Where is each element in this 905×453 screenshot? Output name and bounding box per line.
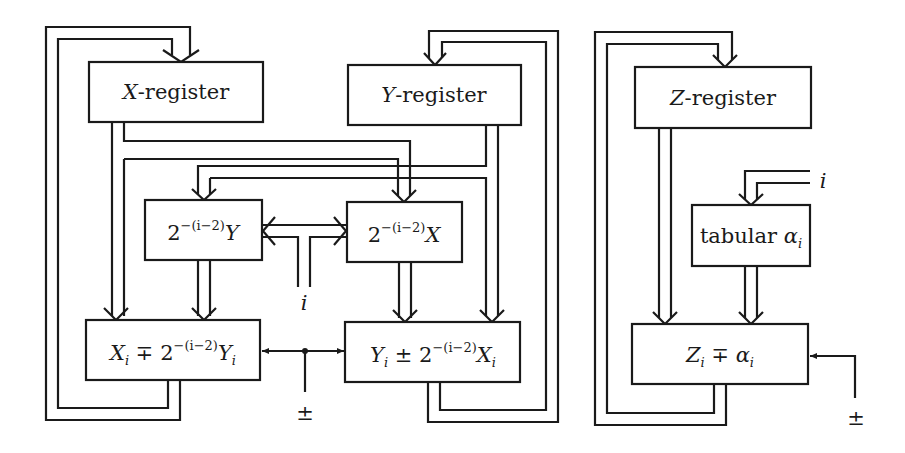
- arrowhead-z-register-icon: [713, 55, 737, 67]
- x-update-base: 2: [160, 341, 173, 365]
- shift-x-to-y-update: [393, 262, 417, 322]
- tabular-alpha-block: tabular αi: [692, 205, 810, 266]
- z-update-rhs: α: [736, 343, 750, 367]
- svg-text:Z-register: Z-register: [669, 86, 777, 110]
- arrowhead-left-icon: [263, 217, 275, 245]
- arrowhead-x-register-icon: [163, 50, 199, 62]
- shift-y-block: 2−(i−2)Y: [145, 200, 262, 260]
- x-update-rhs-sub: i: [232, 353, 236, 368]
- y-update-base: 2: [419, 343, 432, 367]
- shift-y-var: Y: [225, 221, 241, 245]
- sign-xy-label: ±: [296, 401, 314, 425]
- tabular-text: tabular: [700, 224, 784, 248]
- svg-text:X-register: X-register: [121, 80, 230, 104]
- y-update-rhs-sub: i: [492, 355, 496, 370]
- shift-y-to-x-update: [192, 260, 216, 320]
- x-reg-to-x-update: [104, 122, 128, 320]
- arrowhead-right-icon: [334, 217, 346, 245]
- z-update-rhs-sub: i: [750, 355, 754, 370]
- shift-y-exp: −(i−2): [181, 218, 225, 233]
- z-update-block: Zi ∓ αi: [632, 324, 808, 384]
- x-update-exp: −(i−2): [174, 338, 218, 353]
- shift-x-block: 2−(i−2)X: [347, 202, 462, 262]
- cordic-block-diagram: X-register Y-register Z-register 2−(i−2)…: [0, 0, 905, 453]
- y-reg-to-shift-y: [192, 125, 486, 200]
- svg-text:Y-register: Y-register: [381, 83, 487, 107]
- tabular-sub: i: [798, 236, 802, 251]
- x-update-block: Xi ∓ 2−(i−2)Yi: [86, 320, 260, 380]
- tabular-var: α: [784, 224, 798, 248]
- y-update-op: ±: [388, 343, 419, 367]
- sign-z-label: ±: [847, 406, 865, 430]
- y-register-suffix: -register: [395, 83, 487, 107]
- y-update-rhs: X: [475, 343, 493, 367]
- i-to-shift-boxes: [263, 217, 346, 287]
- x-register-block: X-register: [89, 62, 263, 122]
- x-update-lhs: X: [108, 341, 126, 365]
- svg-text:Zi ∓ αi: Zi ∓ αi: [685, 343, 754, 370]
- x-register-suffix: -register: [138, 80, 230, 104]
- z-register-var: Z: [669, 86, 685, 110]
- i-table-label: i: [820, 169, 827, 193]
- y-update-block: Yi ± 2−(i−2)Xi: [345, 322, 520, 382]
- i-shift-label: i: [301, 291, 308, 315]
- svg-text:tabular αi: tabular αi: [700, 224, 802, 251]
- z-update-lhs: Z: [685, 343, 701, 367]
- z-update-op: ∓: [705, 343, 736, 367]
- x-update-op: ∓: [129, 341, 160, 365]
- shift-x-exp: −(i−2): [381, 220, 425, 235]
- z-register-suffix: -register: [685, 86, 777, 110]
- sign-to-z-update: [810, 353, 855, 398]
- z-reg-to-z-update: [653, 128, 677, 324]
- i-to-tabular: [739, 171, 810, 205]
- shift-y-base: 2: [167, 221, 180, 245]
- y-register-block: Y-register: [348, 65, 521, 125]
- y-update-exp: −(i−2): [432, 340, 476, 355]
- tabular-to-z-update: [739, 266, 763, 324]
- shift-x-var: X: [423, 223, 441, 247]
- x-register-var: X: [121, 80, 139, 104]
- z-register-block: Z-register: [635, 67, 811, 128]
- x-reg-to-shift-x: [124, 122, 416, 202]
- shift-x-base: 2: [368, 223, 381, 247]
- sign-to-updates: [262, 348, 344, 392]
